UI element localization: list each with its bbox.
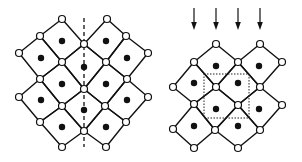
anion-node (103, 59, 110, 66)
cation-dot (38, 55, 44, 61)
anion-node (170, 84, 177, 91)
arrow-head-icon (235, 22, 241, 30)
anion-node (81, 41, 88, 48)
anion-node (59, 16, 66, 23)
cation-dot (103, 81, 109, 87)
cation-dot (191, 80, 197, 86)
cation-dot (103, 124, 109, 130)
anion-node (191, 101, 198, 108)
cation-dot (81, 64, 87, 70)
anion-node (81, 128, 88, 135)
anion-node (123, 33, 130, 40)
anion-node (191, 59, 198, 66)
cation-dot (59, 81, 65, 87)
cation-dot (235, 80, 241, 86)
anion-node (279, 59, 286, 66)
cation-dot (81, 107, 87, 113)
anion-node (235, 102, 242, 109)
cation-dot (38, 97, 44, 103)
left-lattice-panel (16, 16, 152, 151)
anion-node (235, 145, 242, 152)
anion-node (37, 119, 44, 126)
anion-node (257, 41, 264, 48)
anion-node (59, 59, 66, 66)
arrow-head-icon (213, 22, 219, 30)
anion-node (103, 144, 110, 151)
anion-node (170, 126, 177, 133)
cation-dot (213, 106, 219, 112)
cation-dot (256, 106, 262, 112)
anion-node (212, 127, 219, 134)
anion-node (235, 59, 242, 66)
anion-node (257, 127, 264, 134)
anion-node (213, 84, 220, 91)
anion-node (81, 86, 88, 93)
cation-dot (256, 63, 262, 69)
cation-dot (124, 97, 130, 103)
anion-node (16, 94, 23, 101)
anion-node (16, 50, 23, 57)
arrow-head-icon (257, 22, 263, 30)
anion-node (59, 144, 66, 151)
anion-node (191, 145, 198, 152)
anion-node (102, 103, 109, 110)
anion-node (37, 76, 44, 83)
anion-node (123, 119, 130, 126)
anion-node (145, 50, 152, 57)
cation-dot (235, 123, 241, 129)
arrow-head-icon (191, 22, 197, 30)
anion-node (124, 76, 131, 83)
cation-dot (213, 63, 219, 69)
anion-node (279, 102, 286, 109)
anion-node (104, 16, 111, 23)
cation-dot (59, 38, 65, 44)
cation-dot (59, 124, 65, 130)
cation-dot (191, 123, 197, 129)
cation-dot (103, 38, 109, 44)
cation-dot (124, 55, 130, 61)
anion-node (37, 33, 44, 40)
anion-node (59, 103, 66, 110)
anion-node (145, 94, 152, 101)
crystal-lattice-figure (0, 0, 302, 162)
anion-node (257, 84, 264, 91)
right-lattice-panel (170, 8, 286, 152)
anion-node (213, 41, 220, 48)
